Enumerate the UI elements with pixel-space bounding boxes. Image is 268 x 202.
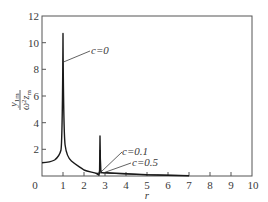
- svg-text:6: 6: [34, 90, 40, 102]
- svg-text:8: 8: [207, 179, 213, 191]
- svg-text:10: 10: [248, 179, 260, 191]
- svg-text:12: 12: [28, 10, 39, 22]
- svg-text:1: 1: [60, 179, 66, 191]
- y-tick-labels: 2 4 6 8 10 12: [28, 10, 40, 155]
- svg-text:0: 0: [32, 179, 38, 191]
- annotation-c0: c=0: [91, 44, 109, 56]
- svg-text:7: 7: [186, 179, 192, 191]
- svg-text:2: 2: [34, 143, 40, 155]
- svg-text:8: 8: [34, 63, 40, 75]
- annotations: c=0 c=0.1 c=0.5: [64, 44, 159, 173]
- annot-leader-c0: [64, 51, 91, 62]
- svg-text:4: 4: [123, 179, 129, 191]
- annotation-c05: c=0.5: [132, 156, 159, 168]
- svg-text:9: 9: [228, 179, 234, 191]
- series-curves: [42, 34, 189, 176]
- svg-text:3: 3: [102, 179, 108, 191]
- svg-text:ω2zm: ω2zm: [20, 89, 33, 109]
- svg-text:6: 6: [165, 179, 171, 191]
- chart: 0 1 2 3 4 5 6 7 8 9 10 2 4 6 8 10 12 r y…: [0, 0, 268, 202]
- annot-leader-c01: [101, 152, 122, 172]
- x-axis-title: r: [145, 189, 150, 201]
- y-axis-ticks: [42, 43, 46, 150]
- annot-leader-c05: [103, 163, 131, 173]
- svg-text:10: 10: [28, 37, 40, 49]
- svg-text:4: 4: [34, 117, 40, 129]
- y-axis-title: y1m ω2zm: [8, 89, 33, 110]
- svg-text:2: 2: [81, 179, 87, 191]
